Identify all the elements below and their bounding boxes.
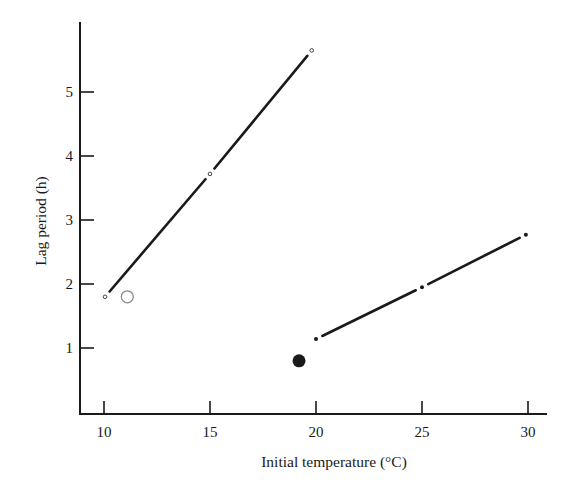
series-group	[121, 291, 133, 303]
trend-line-segment	[110, 179, 206, 291]
x-tick-label: 10	[97, 424, 112, 440]
trend-line-segment	[322, 290, 415, 336]
data-point-filled	[314, 337, 318, 341]
y-tick-label: 3	[66, 212, 74, 228]
large-filled-circle-marker	[293, 354, 306, 367]
large-open-circle-marker	[121, 291, 133, 303]
data-point-filled	[524, 233, 528, 237]
y-tick-label: 1	[66, 340, 74, 356]
data-point-open	[208, 172, 212, 176]
series-group	[293, 354, 306, 367]
lag-period-chart: 12345 1015202530 Initial temperature (°C…	[0, 0, 569, 488]
trend-line-segment	[428, 238, 519, 284]
x-ticks: 1015202530	[97, 401, 536, 440]
data-series	[103, 49, 528, 368]
y-tick-label: 5	[66, 84, 74, 100]
x-tick-label: 25	[415, 424, 430, 440]
data-point-open	[310, 49, 314, 53]
y-tick-label: 2	[66, 276, 74, 292]
y-tick-label: 4	[66, 148, 74, 164]
x-tick-label: 30	[521, 424, 536, 440]
data-point-open	[103, 295, 107, 299]
x-axis-label: Initial temperature (°C)	[261, 453, 407, 471]
series-group	[314, 233, 528, 341]
series-group	[103, 49, 313, 299]
data-point-filled	[420, 285, 424, 289]
trend-line-segment	[214, 56, 307, 169]
x-tick-label: 15	[203, 424, 218, 440]
x-tick-label: 20	[309, 424, 324, 440]
y-axis-label: Lag period (h)	[32, 176, 50, 266]
